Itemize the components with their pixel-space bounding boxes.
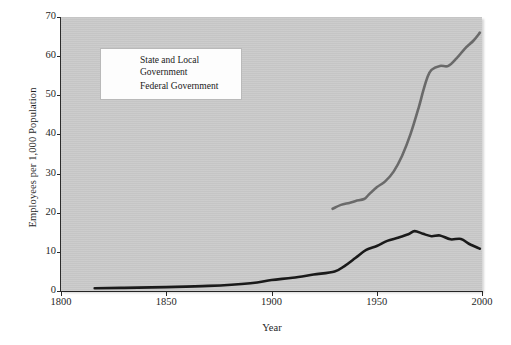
- chart-legend: State and Local Government Federal Gover…: [100, 48, 242, 100]
- legend-item-federal: Federal Government: [108, 81, 235, 93]
- y-tick-label: 20: [30, 206, 56, 217]
- legend-label-federal: Federal Government: [140, 81, 218, 93]
- y-tick-label: 0: [30, 284, 56, 295]
- x-axis-title: Year: [62, 322, 482, 333]
- y-tick-label: 40: [30, 127, 56, 138]
- x-tick-label: 1950: [355, 296, 399, 307]
- y-axis-title: Employees per 1,000 Population: [27, 48, 38, 268]
- x-tick-label: 2000: [460, 296, 504, 307]
- y-tick-label: 70: [30, 10, 56, 21]
- y-tick-label: 10: [30, 245, 56, 256]
- y-tick-label: 50: [30, 88, 56, 99]
- x-tick-mark: [482, 292, 483, 296]
- legend-label-line1: Federal Government: [140, 81, 218, 91]
- series-line-federal: [95, 231, 480, 288]
- series-line-state-and-local: [333, 33, 480, 209]
- x-tick-label: 1900: [250, 296, 294, 307]
- x-tick-mark: [377, 292, 378, 296]
- chart-figure: Employees per 1,000 Population Year 0102…: [0, 0, 511, 345]
- x-tick-mark: [272, 292, 273, 296]
- legend-label-line2: Government: [140, 67, 188, 77]
- x-tick-label: 1800: [39, 296, 83, 307]
- x-tick-mark: [61, 292, 62, 296]
- y-tick-label: 30: [30, 167, 56, 178]
- legend-label-state-and-local: State and Local Government: [140, 55, 199, 78]
- legend-label-line1: State and Local: [140, 55, 199, 65]
- x-tick-label: 1850: [144, 296, 188, 307]
- y-tick-label: 60: [30, 49, 56, 60]
- legend-item-state-and-local: State and Local Government: [108, 55, 235, 78]
- x-tick-mark: [166, 292, 167, 296]
